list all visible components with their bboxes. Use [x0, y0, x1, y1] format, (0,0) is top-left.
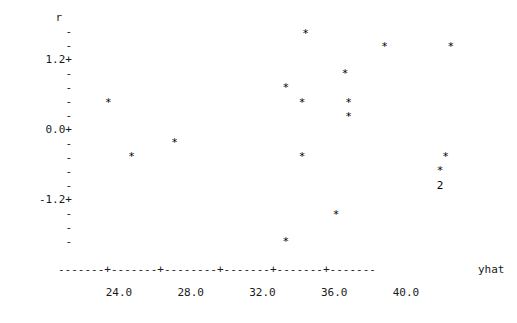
y-axis-minor-tick: - — [0, 26, 72, 37]
x-axis-tick-label: 24.0 — [99, 287, 139, 298]
x-axis-tick-label: 36.0 — [314, 287, 354, 298]
data-point-marker: * — [298, 97, 305, 108]
x-axis-tick-label: 32.0 — [243, 287, 283, 298]
residual-scatter-plot: r --1.2+----0.0+-----1.2+--- ***********… — [0, 0, 517, 323]
x-axis-tick-label: 40.0 — [386, 287, 426, 298]
x-axis-label: yhat — [478, 264, 505, 275]
data-point-marker: * — [282, 82, 289, 93]
y-axis-minor-tick: - — [0, 110, 72, 121]
data-point-marker: * — [342, 68, 349, 79]
data-point-marker: * — [171, 137, 178, 148]
data-point-marker: * — [105, 97, 112, 108]
y-axis-minor-tick: - — [0, 138, 72, 149]
y-axis-minor-tick: - — [0, 82, 72, 93]
x-axis-tick-label: 28.0 — [171, 287, 211, 298]
data-point-marker: * — [345, 111, 352, 122]
y-axis-label: r — [0, 12, 62, 23]
y-axis-tick-label: -1.2+ — [0, 194, 72, 205]
y-axis-tick-label: 1.2+ — [0, 54, 72, 65]
y-axis-minor-tick: - — [0, 40, 72, 51]
data-point-marker: * — [345, 97, 352, 108]
y-axis-tick-label: 0.0+ — [0, 124, 72, 135]
data-point-marker: * — [282, 236, 289, 247]
y-axis-minor-tick: - — [0, 152, 72, 163]
data-point-marker: * — [128, 151, 135, 162]
data-point-marker: * — [333, 209, 340, 220]
data-point-marker: * — [302, 28, 309, 39]
data-point-marker: * — [437, 165, 444, 176]
y-axis-minor-tick: - — [0, 208, 72, 219]
data-point-marker: * — [381, 41, 388, 52]
data-point-marker: * — [447, 41, 454, 52]
y-axis-minor-tick: - — [0, 222, 72, 233]
y-axis-minor-tick: - — [0, 166, 72, 177]
y-axis-minor-tick: - — [0, 180, 72, 191]
y-axis-minor-tick: - — [0, 236, 72, 247]
data-point-marker: * — [298, 151, 305, 162]
data-point-marker: * — [442, 151, 449, 162]
x-axis-line: -------+-------+--------+-------+-------… — [58, 264, 376, 275]
y-axis-minor-tick: - — [0, 96, 72, 107]
y-axis-minor-tick: - — [0, 68, 72, 79]
data-point-overlap-marker: 2 — [437, 180, 444, 191]
